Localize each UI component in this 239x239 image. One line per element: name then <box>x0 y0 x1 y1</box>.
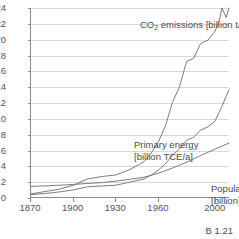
x-tick-label: 1900 <box>62 203 83 213</box>
series-path-co2 <box>31 8 229 194</box>
y-tick-label: 24 <box>0 3 6 13</box>
x-tick-label: 1930 <box>105 203 126 213</box>
y-tick-label: 12 <box>0 98 6 108</box>
annotation-primary-energy: Primary energy [billion TCE/a] <box>134 139 198 163</box>
x-axis: 18701900193019602000 <box>30 198 229 216</box>
y-tick-label: 6 <box>0 146 6 156</box>
annotation-population-text: Population <box>211 183 239 195</box>
y-tick-label: 18 <box>0 51 6 61</box>
annotation-co2-text: CO <box>140 19 154 30</box>
annotation-co2-emissions: CO2 emissions [billion t/a] <box>140 19 239 32</box>
y-tick-mark <box>28 103 31 104</box>
y-tick-mark <box>28 182 31 183</box>
y-tick-mark <box>28 56 31 57</box>
y-tick-mark <box>28 166 31 167</box>
y-tick-label: 14 <box>0 82 6 92</box>
annotation-co2-subscript: 2 <box>154 24 158 31</box>
y-tick-label: 20 <box>0 35 6 45</box>
annotation-energy-text: Primary energy <box>134 139 198 151</box>
y-tick-mark <box>28 135 31 136</box>
annotation-co2-unit: emissions [billion t/a] <box>158 19 239 30</box>
x-tick-label: 1870 <box>19 203 40 213</box>
y-tick-mark <box>28 87 31 88</box>
y-tick-mark <box>28 119 31 120</box>
y-tick-label: 4 <box>0 161 6 171</box>
series-path-population <box>31 143 229 186</box>
x-tick-label: 2000 <box>204 203 225 213</box>
x-tick-label: 1960 <box>147 203 168 213</box>
y-tick-label: 10 <box>0 114 6 124</box>
y-tick-label: 16 <box>0 66 6 76</box>
figure-number: B 1.21 <box>206 225 233 236</box>
y-tick-mark <box>28 151 31 152</box>
y-tick-mark <box>28 24 31 25</box>
y-tick-label: 22 <box>0 19 6 29</box>
plot-area: CO2 emissions [billion t/a] Primary ener… <box>30 8 229 198</box>
y-tick-mark <box>28 8 31 9</box>
annotation-energy-unit: [billion TCE/a] <box>134 151 198 163</box>
series-curves <box>31 8 229 197</box>
y-tick-label: 8 <box>0 130 6 140</box>
y-tick-label: 2 <box>0 177 6 187</box>
y-tick-mark <box>28 40 31 41</box>
figure-container: 024681012141618202224 CO2 emissions [bil… <box>0 0 239 239</box>
y-tick-mark <box>28 71 31 72</box>
y-tick-label: 0 <box>0 193 6 203</box>
